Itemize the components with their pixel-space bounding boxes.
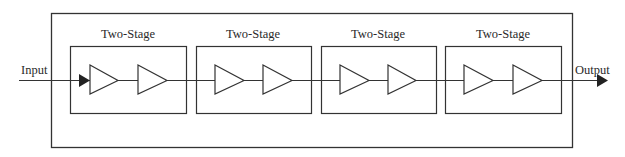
amplifier-chain-diagram: Input Output Two-Stage Two-Stage Two-Sta… — [0, 0, 625, 157]
stage-label: Two-Stage — [476, 27, 530, 41]
stage-label: Two-Stage — [101, 27, 155, 41]
stage-label: Two-Stage — [226, 27, 280, 41]
two-stage-block-1: Two-Stage — [70, 27, 187, 114]
two-stage-block-4: Two-Stage — [445, 27, 562, 114]
two-stage-block-2: Two-Stage — [196, 27, 312, 114]
two-stage-block-3: Two-Stage — [321, 27, 437, 114]
output-label: Output — [575, 63, 610, 77]
input-label: Input — [21, 63, 48, 77]
stage-label: Two-Stage — [351, 27, 405, 41]
